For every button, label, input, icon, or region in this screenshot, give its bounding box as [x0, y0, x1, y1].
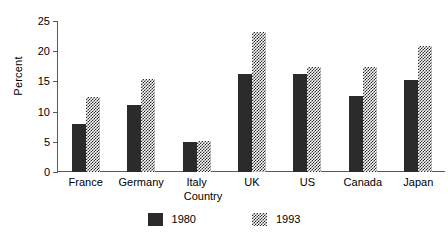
x-tick-label-germany: Germany — [119, 176, 164, 189]
y-tick-label: 5 — [44, 136, 50, 147]
bar-group — [349, 21, 377, 172]
legend-label-1993: 1993 — [276, 214, 300, 225]
legend-label-1980: 1980 — [172, 214, 196, 225]
y-tick-label: 20 — [38, 46, 50, 57]
bar-uk-1993 — [252, 32, 266, 172]
y-tick-mark — [53, 81, 58, 82]
x-tick-label-canada: Canada — [344, 176, 383, 189]
bar-group — [404, 21, 432, 172]
bar-japan-1993 — [418, 46, 432, 172]
legend-swatch-1980 — [148, 213, 163, 226]
bar-us-1993 — [307, 67, 321, 172]
y-tick-mark — [53, 112, 58, 113]
bar-series-container — [58, 21, 445, 172]
x-tick-label-france: France — [69, 176, 103, 189]
bar-canada-1980 — [349, 96, 363, 172]
bar-germany-1993 — [141, 79, 155, 172]
bar-group — [183, 21, 211, 172]
bar-chart: Percent 0510152025 FranceGermanyItalyUKU… — [0, 0, 448, 244]
y-tick-mark — [53, 142, 58, 143]
plot-area: 0510152025 — [57, 21, 445, 172]
x-tick-label-uk: UK — [244, 176, 259, 189]
y-tick-mark — [53, 21, 58, 22]
bar-canada-1993 — [363, 67, 377, 172]
y-tick-label: 10 — [38, 106, 50, 117]
bar-group — [72, 21, 100, 172]
bar-group — [238, 21, 266, 172]
x-tick-label-italy: Italy — [186, 176, 206, 189]
x-axis-title: Country — [57, 190, 445, 202]
bar-uk-1980 — [238, 74, 252, 172]
bar-us-1980 — [293, 74, 307, 172]
bar-france-1993 — [86, 97, 100, 172]
chart-legend: 1980 1993 — [0, 213, 448, 226]
bar-france-1980 — [72, 124, 86, 172]
legend-item-1980: 1980 — [148, 213, 196, 226]
y-tick-mark — [53, 51, 58, 52]
y-axis-title: Percent — [12, 36, 24, 116]
x-tick-label-japan: Japan — [403, 176, 433, 189]
x-tick-label-us: US — [300, 176, 315, 189]
bar-italy-1993 — [197, 141, 211, 172]
y-tick-mark — [53, 172, 58, 173]
y-tick-label: 15 — [38, 76, 50, 87]
legend-swatch-1993 — [252, 213, 267, 226]
y-tick-label: 0 — [44, 167, 50, 178]
bar-group — [293, 21, 321, 172]
bar-japan-1980 — [404, 80, 418, 172]
bar-germany-1980 — [127, 105, 141, 172]
bar-group — [127, 21, 155, 172]
y-tick-label: 25 — [38, 16, 50, 27]
bar-italy-1980 — [183, 142, 197, 172]
legend-item-1993: 1993 — [252, 213, 300, 226]
